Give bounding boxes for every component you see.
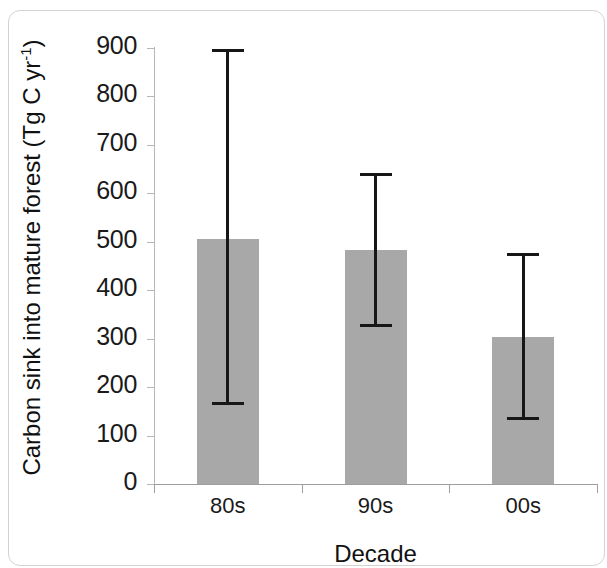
x-axis-tick — [449, 484, 450, 493]
x-axis-tick — [302, 484, 303, 493]
error-bar-cap-upper — [212, 49, 244, 52]
y-axis-tick — [147, 96, 155, 97]
y-axis-tick-label: 500 — [9, 225, 137, 254]
x-axis-title: Decade — [154, 540, 597, 568]
y-axis-tick-label: 700 — [9, 128, 137, 157]
error-bar-cap-lower — [360, 324, 392, 327]
error-bar-cap-lower — [507, 417, 539, 420]
y-axis-tick — [147, 290, 155, 291]
x-axis-tick-label: 90s — [326, 493, 426, 519]
y-axis-tick-label: 800 — [9, 79, 137, 108]
y-axis-tick-label: 100 — [9, 419, 137, 448]
y-axis-tick-label: 400 — [9, 273, 137, 302]
x-axis-tick-label: 00s — [473, 493, 573, 519]
y-axis-tick-label: 0 — [9, 467, 137, 496]
error-bar-line — [374, 174, 377, 325]
error-bar-cap-upper — [507, 253, 539, 256]
figure-frame: Carbon sink into mature forest (Tg C yr-… — [8, 10, 605, 566]
error-bar-cap-lower — [212, 402, 244, 405]
y-axis-tick — [147, 339, 155, 340]
error-bar-cap-upper — [360, 173, 392, 176]
y-axis-title-text: Carbon sink into mature forest (Tg C yr — [18, 61, 45, 476]
error-bar-line — [226, 50, 229, 403]
y-axis-tick — [147, 193, 155, 194]
y-axis-tick-label: 300 — [9, 322, 137, 351]
x-axis-tick — [154, 484, 155, 493]
y-axis-tick — [147, 387, 155, 388]
y-axis-tick-label: 600 — [9, 176, 137, 205]
error-bar-line — [522, 254, 525, 418]
x-axis-tick-label: 80s — [178, 493, 278, 519]
x-axis-tick — [597, 484, 598, 493]
x-axis-line — [154, 484, 597, 485]
y-axis-tick — [147, 436, 155, 437]
y-axis-tick — [147, 48, 155, 49]
y-axis-line — [154, 47, 155, 485]
y-axis-tick-label: 200 — [9, 370, 137, 399]
y-axis-tick-label: 900 — [9, 31, 137, 60]
y-axis-tick — [147, 242, 155, 243]
y-axis-tick — [147, 145, 155, 146]
